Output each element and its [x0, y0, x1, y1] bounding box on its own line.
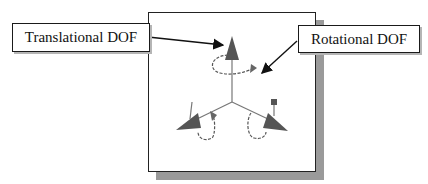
dof-diagram: Translational DOF Rotational DOF	[0, 0, 428, 184]
translational-cone-right-icon	[263, 113, 288, 131]
translational-cone-left-icon	[176, 113, 201, 130]
translational-cone-up-icon	[225, 36, 239, 60]
rotational-marker-icon	[271, 99, 277, 105]
translational-dof-text: Translational DOF	[25, 29, 137, 46]
translational-dof-label: Translational DOF	[12, 23, 150, 52]
rotational-dof-text: Rotational DOF	[311, 31, 407, 48]
translational-leader-line	[148, 37, 223, 45]
rotational-dof-label: Rotational DOF	[298, 25, 420, 53]
rotational-leader-line	[262, 41, 297, 73]
